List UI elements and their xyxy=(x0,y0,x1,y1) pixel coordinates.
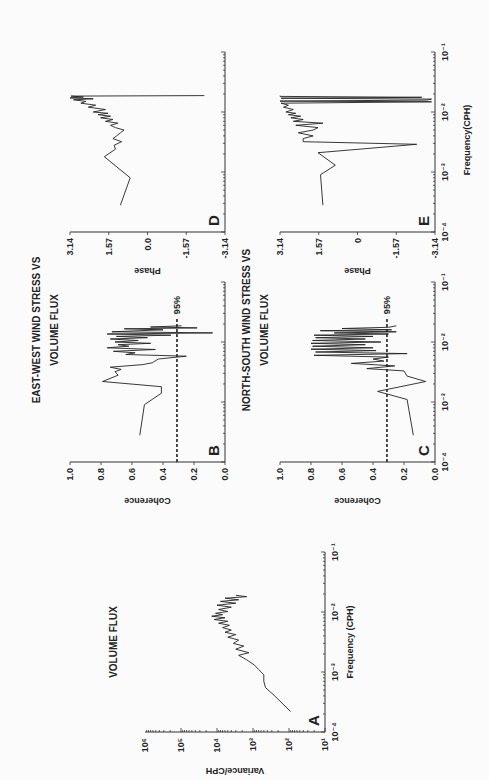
y-tick-label-D: 3.14 xyxy=(65,238,75,256)
y-axis-label-E: Phase xyxy=(344,266,371,276)
panel-letter-E: E xyxy=(415,216,432,226)
x-axis-label-A: Frequency (CPH) xyxy=(345,605,355,678)
figure-container: EAST-WEST WIND STRESS VS VOLUME FLUX NOR… xyxy=(0,0,489,780)
title-ew-line2: VOLUME FLUX xyxy=(49,294,60,366)
panel-letter-C: C xyxy=(415,445,432,456)
panel-C: 10⁻⁴10⁻³10⁻²10⁻¹0.00.20.40.60.81.0Cohere… xyxy=(275,273,450,506)
y-tick-label-E: -1.57 xyxy=(391,238,401,259)
shared-frequency-label: Frequency(CPH) xyxy=(462,105,472,176)
rotated-figure: EAST-WEST WIND STRESS VS VOLUME FLUX NOR… xyxy=(0,0,489,780)
series-line-B-coherence xyxy=(103,326,213,435)
panel-letter-D: D xyxy=(205,215,222,226)
y-tick-label-C: 0.0 xyxy=(430,468,440,481)
panel-letter-B: B xyxy=(205,445,222,456)
y-tick-label-E: 0 xyxy=(353,238,363,243)
panel-D: -3.14-1.570.01.573.14PhaseD xyxy=(65,52,230,276)
y-axis-label-C: Coherence xyxy=(334,496,381,506)
panel-E: 10⁻⁴10⁻³10⁻²10⁻¹-3.14-1.5701.573.14Phase… xyxy=(275,43,450,276)
panel-A: 10⁻⁴10⁻³10⁻²10⁻¹10¹10²10³10⁴10⁵10⁶Varian… xyxy=(108,543,355,776)
y-tick-label-D: -1.57 xyxy=(181,238,191,259)
y-tick-label-C: 1.0 xyxy=(275,468,285,481)
panel-title-A: VOLUME FLUX xyxy=(108,606,119,678)
y-tick-label-C: 0.4 xyxy=(368,468,378,481)
y-axis-label-B: Coherence xyxy=(124,496,171,506)
y-tick-label-B: 0.6 xyxy=(127,468,137,481)
x-tick-label-A: 10⁻¹ xyxy=(330,543,340,561)
y-tick-label-A: 10² xyxy=(284,738,294,751)
y-tick-label-B: 0.2 xyxy=(189,468,199,481)
series-line-C-coherence xyxy=(311,326,426,435)
y-tick-label-B: 1.0 xyxy=(65,468,75,481)
panel-B: 0.00.20.40.60.81.0CoherenceB95% xyxy=(65,282,230,506)
y-tick-label-B: 0.8 xyxy=(96,468,106,481)
y-tick-label-A: 10⁴ xyxy=(212,738,222,752)
series-line-A-variance xyxy=(212,595,291,711)
x-tick-label-C: 10⁻² xyxy=(440,333,450,351)
series-line-D-phase xyxy=(70,96,204,206)
y-tick-label-C: 0.8 xyxy=(306,468,316,481)
x-tick-label-C: 10⁻¹ xyxy=(440,273,450,291)
x-tick-label-A: 10⁻³ xyxy=(330,663,340,681)
panels: 10⁻⁴10⁻³10⁻²10⁻¹10¹10²10³10⁴10⁵10⁶Varian… xyxy=(65,43,450,776)
y-axis-label-D: Phase xyxy=(134,266,161,276)
y-tick-label-C: 0.2 xyxy=(399,468,409,481)
x-tick-label-E: 10⁻² xyxy=(440,103,450,121)
panel-letter-A: A xyxy=(305,715,322,726)
series-line-E-phase xyxy=(280,96,432,206)
significance-label-B: 95% xyxy=(172,296,182,314)
y-tick-label-A: 10⁶ xyxy=(140,738,150,752)
title-ew-line1: EAST-WEST WIND STRESS VS xyxy=(31,256,42,403)
y-tick-label-A: 10³ xyxy=(248,738,258,751)
x-tick-label-E: 10⁻⁴ xyxy=(440,222,450,241)
title-ns-line1: NORTH-SOUTH WIND STRESS VS xyxy=(241,249,252,412)
y-tick-label-A: 10⁵ xyxy=(176,738,186,752)
x-tick-label-A: 10⁻⁴ xyxy=(330,722,340,741)
y-tick-label-D: 0.0 xyxy=(143,238,153,251)
x-tick-label-A: 10⁻² xyxy=(330,603,340,621)
y-tick-label-C: 0.6 xyxy=(337,468,347,481)
y-tick-label-E: 3.14 xyxy=(275,238,285,256)
y-tick-label-A: 10¹ xyxy=(320,738,330,751)
y-tick-label-E: 1.57 xyxy=(314,238,324,256)
x-tick-label-E: 10⁻¹ xyxy=(440,43,450,61)
y-tick-label-B: 0.0 xyxy=(220,468,230,481)
y-tick-label-E: -3.14 xyxy=(430,238,440,259)
y-tick-label-D: 1.57 xyxy=(104,238,114,256)
y-axis-label-A: Variance/CPH xyxy=(206,766,265,776)
x-tick-label-E: 10⁻³ xyxy=(440,163,450,181)
y-tick-label-D: -3.14 xyxy=(220,238,230,259)
y-tick-label-B: 0.4 xyxy=(158,468,168,481)
x-tick-label-C: 10⁻⁴ xyxy=(440,452,450,471)
significance-label-C: 95% xyxy=(382,296,392,314)
x-tick-label-C: 10⁻³ xyxy=(440,393,450,411)
title-ns-line2: VOLUME FLUX xyxy=(259,294,270,366)
figure-svg: EAST-WEST WIND STRESS VS VOLUME FLUX NOR… xyxy=(0,0,489,780)
